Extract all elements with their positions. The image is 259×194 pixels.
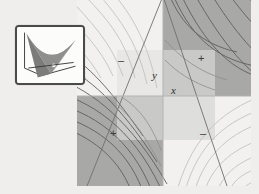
inset-surface-svg bbox=[17, 27, 83, 83]
shade-band-4 bbox=[163, 96, 215, 140]
x-axis-label: x bbox=[171, 85, 176, 96]
figure-root: – + + – y x bbox=[0, 0, 259, 194]
quadrant-sign-bottom-right: – bbox=[200, 128, 206, 139]
y-axis-label: y bbox=[152, 70, 157, 81]
contour-plot-panel bbox=[77, 0, 251, 186]
quadrant-sign-bottom-left: + bbox=[110, 128, 116, 139]
quadrant-sign-top-left: – bbox=[118, 55, 124, 66]
inset-surface-panel bbox=[15, 25, 85, 85]
quadrant-sign-top-right: + bbox=[198, 53, 204, 64]
contour-plot-svg bbox=[77, 0, 251, 186]
